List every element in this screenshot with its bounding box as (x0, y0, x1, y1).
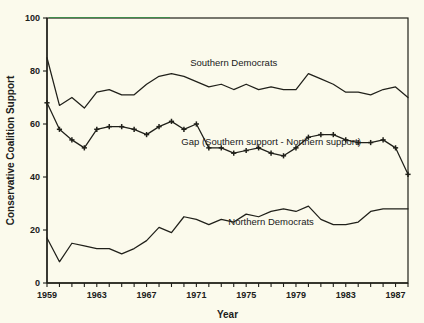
x-tick-label: 1959 (37, 290, 57, 300)
y-tick-label: 60 (30, 119, 40, 129)
x-tick-label: 1979 (286, 290, 306, 300)
y-tick-label: 80 (30, 66, 40, 76)
x-tick-label: 1983 (336, 290, 356, 300)
x-axis-title: Year (217, 309, 238, 320)
x-tick-label: 1967 (137, 290, 157, 300)
line-chart-svg: 0204060801001959196319671971197519791983… (0, 0, 424, 323)
y-tick-label: 20 (30, 225, 40, 235)
series-label-2: Northern Democrats (228, 216, 314, 227)
y-tick-label: 40 (30, 172, 40, 182)
y-tick-label: 100 (25, 13, 40, 23)
x-tick-label: 1971 (186, 290, 206, 300)
series-label-1: Gap (Southern support - Northern support… (181, 136, 361, 147)
y-axis-title: Conservative Coalition Support (5, 75, 16, 225)
series-label-0: Southern Democrats (190, 57, 277, 68)
series-line-2 (47, 206, 408, 262)
x-tick-label: 1987 (386, 290, 406, 300)
chart-container: 0204060801001959196319671971197519791983… (0, 0, 424, 323)
y-tick-label: 0 (35, 278, 40, 288)
chart-generated-content: 0204060801001959196319671971197519791983… (5, 13, 411, 320)
x-tick-label: 1975 (236, 290, 256, 300)
x-tick-label: 1963 (87, 290, 107, 300)
